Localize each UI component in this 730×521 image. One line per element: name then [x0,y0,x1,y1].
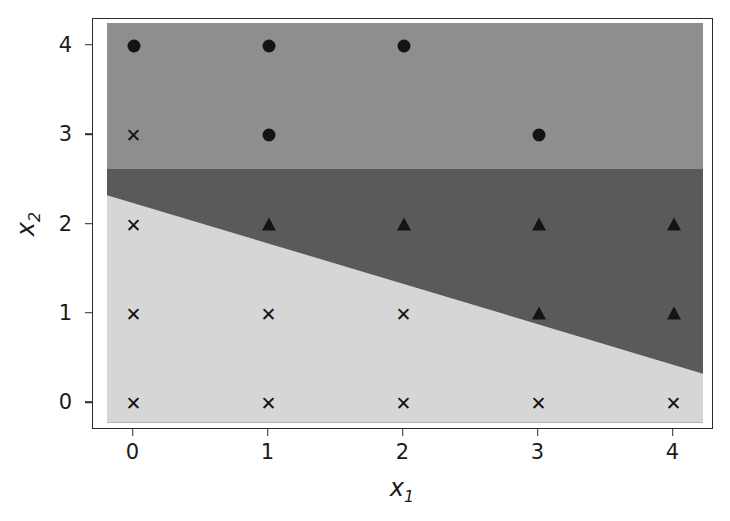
data-point-triangle [262,217,276,230]
y-tick-label: 3 [59,122,72,146]
x-tick-mark [267,429,269,436]
data-point-triangle [532,306,546,319]
data-point-triangle [667,306,681,319]
matplotlib-figure: ✕✕✕✕✕✕✕✕✕✕ 01234 01234 x1 x2 [0,0,730,521]
y-tick-label: 0 [59,390,72,414]
data-point-cross: ✕ [126,215,142,234]
data-point-circle [262,39,275,52]
data-point-cross: ✕ [126,304,142,323]
x-tick-mark [537,429,539,436]
data-point-circle [127,39,140,52]
data-point-circle [532,129,545,142]
x-tick-mark [672,429,674,436]
data-point-triangle [397,217,411,230]
data-point-cross: ✕ [261,394,277,413]
data-point-cross: ✕ [126,126,142,145]
data-point-cross: ✕ [396,304,412,323]
x-tick-label: 2 [396,440,409,464]
x-tick-label: 3 [531,440,544,464]
data-point-cross: ✕ [261,304,277,323]
x-tick-label: 4 [666,440,679,464]
data-point-triangle [667,217,681,230]
y-tick-label: 1 [59,301,72,325]
y-tick-label: 2 [59,212,72,236]
xlabel-subscript: 1 [404,487,414,506]
data-point-cross: ✕ [666,394,682,413]
y-tick-mark [85,133,92,135]
x-tick-label: 1 [261,440,274,464]
ylabel-subscript: 2 [25,212,44,222]
y-tick-mark [85,44,92,46]
data-point-cross: ✕ [531,394,547,413]
plot-axes: ✕✕✕✕✕✕✕✕✕✕ [92,18,713,429]
x-tick-label: 0 [126,440,139,464]
data-point-triangle [532,217,546,230]
x-axis-label: x1 [390,474,414,506]
y-tick-label: 4 [59,33,72,57]
ylabel-base: x [12,222,40,236]
data-point-cross: ✕ [126,394,142,413]
x-tick-mark [402,429,404,436]
y-tick-mark [85,223,92,225]
data-point-circle [262,129,275,142]
y-axis-label: x2 [12,212,44,236]
data-point-circle [397,39,410,52]
xlabel-base: x [390,474,404,502]
y-tick-mark [85,401,92,403]
y-tick-mark [85,312,92,314]
data-point-cross: ✕ [396,394,412,413]
x-tick-mark [132,429,134,436]
